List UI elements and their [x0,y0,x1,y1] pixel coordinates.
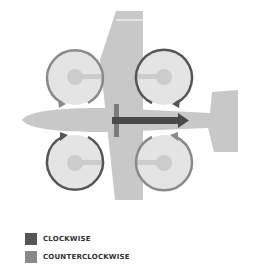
rotor-rear-right [136,132,192,191]
rotor-front-right [136,49,192,108]
legend-label: COUNTERCLOCKWISE [43,253,130,261]
legend-item-clockwise: CLOCKWISE [25,230,130,248]
clockwise-swatch [25,233,37,245]
aircraft-diagram [0,0,253,200]
legend: CLOCKWISE COUNTERCLOCKWISE [25,230,130,266]
counterclockwise-swatch [25,251,37,263]
rotor-front-left [47,49,103,108]
thrust-arrow-shaft [112,117,180,124]
legend-item-counterclockwise: COUNTERCLOCKWISE [25,248,130,266]
rotor-rear-left [47,132,103,191]
legend-label: CLOCKWISE [43,235,91,243]
